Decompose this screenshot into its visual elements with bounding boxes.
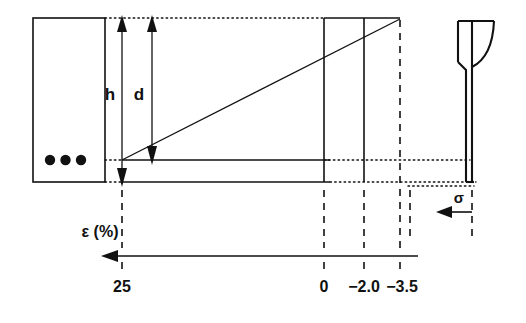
d-arrow-head-bottom (147, 146, 157, 165)
stress-block-curve (472, 21, 494, 67)
tick-label-zero: 0 (320, 278, 329, 295)
strain-axis: ε (%) (82, 223, 418, 262)
figure-container: h d (0, 0, 526, 323)
tick-label-minus-three-five: −3.5 (386, 278, 418, 295)
strain-line (122, 19, 400, 160)
h-arrow-head-bottom (117, 168, 127, 187)
sigma-arrow-head (436, 206, 452, 218)
h-label: h (105, 85, 115, 104)
projection-lines (105, 18, 476, 182)
rebar-dot (60, 155, 70, 165)
concrete-section (33, 18, 105, 182)
tick-label-steel-strain: 25 (113, 278, 131, 295)
strain-distribution (122, 19, 400, 182)
strain-stress-diagram: h d (0, 0, 526, 323)
rebar-dot (76, 155, 86, 165)
rebar-dot (45, 155, 55, 165)
stress-indicator: σ (408, 186, 474, 240)
h-dimension: h (105, 15, 127, 187)
strain-value-verticals (324, 18, 400, 272)
stress-block-tail-left (458, 62, 466, 182)
strain-axis-label: ε (%) (82, 223, 119, 240)
tick-labels: 25 0 −2.0 −3.5 (113, 278, 418, 295)
sigma-label: σ (454, 189, 464, 206)
tick-label-minus-two: −2.0 (348, 278, 380, 295)
d-label: d (134, 85, 144, 104)
stress-block (458, 21, 494, 182)
d-dimension: d (134, 15, 157, 165)
strain-axis-arrow-head (101, 250, 118, 262)
